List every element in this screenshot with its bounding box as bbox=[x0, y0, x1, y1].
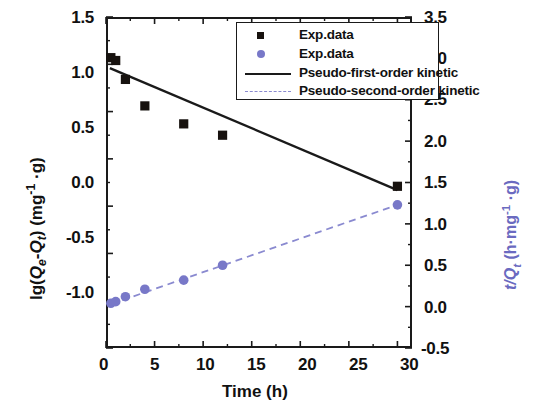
y-axis-left-title: lg(Qe-Qt) (mg-1 ·g) bbox=[24, 157, 49, 300]
ytick-left-1.5: 1.5 bbox=[44, 8, 94, 28]
yrt-q: Q bbox=[502, 268, 519, 280]
legend-entry-pseudo-first-order: Pseudo-first-order kinetic bbox=[237, 64, 440, 83]
ytick-left-0.0: 0.0 bbox=[44, 173, 94, 193]
legend-label-2: Pseudo-first-order kinetic bbox=[299, 65, 458, 80]
fit-lines bbox=[110, 68, 398, 304]
legend-entry-pseudo-second-order: Pseudo-second-order kinetic bbox=[237, 82, 440, 101]
ytick-right-1.5: 1.5 bbox=[424, 173, 447, 193]
xtick-5: 5 bbox=[150, 355, 159, 375]
ylt-q2: Q bbox=[27, 240, 46, 253]
xtick-25: 25 bbox=[349, 355, 367, 375]
ytick-right-1.0: 1.0 bbox=[424, 215, 447, 235]
ytick-right-2.0: 2.0 bbox=[424, 132, 447, 152]
legend-label-3: Pseudo-second-order kinetic bbox=[299, 83, 480, 98]
xtick-30: 30 bbox=[400, 355, 418, 375]
ylt-pre: lg( bbox=[27, 279, 46, 300]
ytick-right--0.5: -0.5 bbox=[421, 339, 449, 359]
kinetics-figure: 1.5 1.0 0.5 0.0 -0.5 -1.0 3.5 3.0 2.5 2.… bbox=[0, 0, 540, 406]
ylt-dash: - bbox=[27, 254, 46, 260]
yrt-post: (h·mg bbox=[502, 215, 519, 264]
legend-label-1: Exp.data bbox=[299, 46, 354, 61]
xtick-15: 15 bbox=[247, 355, 265, 375]
solid-line-swatch-icon bbox=[245, 73, 291, 75]
yrt-end: ·g) bbox=[502, 180, 519, 205]
ylt-sub1: e bbox=[35, 259, 49, 266]
legend-label-0: Exp.data bbox=[299, 27, 354, 42]
legend: Exp.data Exp.data Pseudo-first-order kin… bbox=[236, 22, 439, 100]
ytick-left-1.0: 1.0 bbox=[44, 63, 94, 83]
xtick-20: 20 bbox=[298, 355, 316, 375]
ytick-right-0.0: 0.0 bbox=[424, 298, 447, 318]
legend-entry-exp-data-black: Exp.data bbox=[237, 26, 440, 45]
ytick-right-0.5: 0.5 bbox=[424, 256, 447, 276]
ylt-post: ) (mg bbox=[27, 195, 46, 237]
yrt-sub: t bbox=[511, 264, 523, 268]
ylt-sub2: t bbox=[35, 236, 49, 240]
circle-marker-icon bbox=[257, 50, 265, 58]
xtick-0: 0 bbox=[99, 355, 108, 375]
yrt-t: t/ bbox=[502, 280, 519, 290]
x-axis-title: Time (h) bbox=[222, 382, 288, 402]
square-marker-icon bbox=[257, 32, 264, 39]
yrt-sup: -1 bbox=[500, 205, 512, 215]
legend-entry-exp-data-blue: Exp.data bbox=[237, 45, 440, 64]
xtick-10: 10 bbox=[196, 355, 214, 375]
ytick-left-0.5: 0.5 bbox=[44, 118, 94, 138]
x-axis-title-text: Time (h) bbox=[222, 382, 288, 401]
y-axis-right-title: t/Qt (h·mg-1 ·g) bbox=[500, 180, 523, 290]
dashed-line-swatch-icon bbox=[245, 91, 291, 92]
ylt-end: ·g) bbox=[27, 157, 46, 183]
ylt-q1: Q bbox=[27, 266, 46, 279]
ylt-sup: -1 bbox=[24, 184, 38, 195]
